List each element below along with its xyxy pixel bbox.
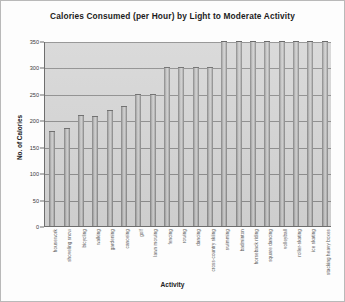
bar-slot xyxy=(150,41,156,226)
x-tick-label: rowing xyxy=(182,229,187,243)
bar-slot xyxy=(279,41,285,226)
x-tick-label: canoeing xyxy=(125,229,130,248)
bar-slot xyxy=(236,41,242,226)
bar[interactable] xyxy=(307,41,313,226)
plot-area xyxy=(44,42,331,227)
bar[interactable] xyxy=(322,41,328,226)
x-tick-label: roller-skating xyxy=(297,229,302,257)
x-tick-label: housework xyxy=(53,229,58,252)
bar[interactable] xyxy=(207,67,213,226)
bar-slot xyxy=(307,41,313,226)
chart-title: Calories Consumed (per Hour) by Light to… xyxy=(0,11,345,21)
bar-slot xyxy=(92,41,98,226)
bar-slot xyxy=(178,41,184,226)
bar-slot xyxy=(135,41,141,226)
x-axis-tick-labels: houseworkshoveling snowbicyclingwalkingg… xyxy=(44,229,331,277)
x-tick-label: ice skating xyxy=(311,229,316,252)
y-tick-label: 0 xyxy=(36,224,39,230)
bar[interactable] xyxy=(193,67,199,226)
x-tick-label: shoveling snow xyxy=(67,229,72,262)
bar-slot xyxy=(207,41,213,226)
x-tick-label: volleyball xyxy=(283,229,288,249)
x-tick-label: swimming xyxy=(225,229,230,250)
x-tick-label: badminton xyxy=(240,229,245,251)
bar[interactable] xyxy=(107,110,113,226)
bar-slot xyxy=(164,41,170,226)
x-tick-label: bicycling xyxy=(82,229,87,248)
y-tick-label: 50 xyxy=(33,198,39,204)
x-tick-label: gardening xyxy=(110,229,115,250)
bar[interactable] xyxy=(264,41,270,226)
y-axis: 050100150200250300350 xyxy=(0,42,44,227)
bar[interactable] xyxy=(250,41,256,226)
bar[interactable] xyxy=(135,94,141,226)
plot-wrapper xyxy=(44,42,331,227)
bar[interactable] xyxy=(150,94,156,226)
bar[interactable] xyxy=(78,115,84,226)
y-tick-label: 350 xyxy=(30,39,39,45)
y-tick-label: 200 xyxy=(30,118,39,124)
bar-slot xyxy=(322,41,328,226)
bar-slot xyxy=(250,41,256,226)
x-tick-label: stacking heavy boxes xyxy=(326,229,331,275)
bar-slot xyxy=(221,41,227,226)
bar[interactable] xyxy=(49,131,55,226)
bar-slot xyxy=(107,41,113,226)
x-tick-label: horseback riding xyxy=(254,229,259,264)
bar-slot xyxy=(264,41,270,226)
y-tick-label: 250 xyxy=(30,92,39,98)
bar[interactable] xyxy=(293,41,299,226)
y-tick-label: 100 xyxy=(30,171,39,177)
y-tick-label: 150 xyxy=(30,145,39,151)
bar[interactable] xyxy=(178,67,184,226)
x-tick-label: fencing xyxy=(168,229,173,245)
x-tick-label: square dancing xyxy=(268,229,273,262)
bar[interactable] xyxy=(64,128,70,226)
bar[interactable] xyxy=(221,41,227,226)
x-tick-label: walking xyxy=(96,229,101,245)
bar-slot xyxy=(78,41,84,226)
chart-figure: Calories Consumed (per Hour) by Light to… xyxy=(0,0,345,302)
bar[interactable] xyxy=(164,67,170,226)
bar-slot xyxy=(293,41,299,226)
bar-slot xyxy=(121,41,127,226)
bar[interactable] xyxy=(236,41,242,226)
bar-slot xyxy=(49,41,55,226)
x-tick-label: lawn mowing xyxy=(153,229,158,257)
x-tick-label: dancing xyxy=(196,229,201,246)
bar[interactable] xyxy=(279,41,285,226)
bar-slot xyxy=(64,41,70,226)
bar[interactable] xyxy=(121,106,127,227)
bar[interactable] xyxy=(92,116,98,226)
x-axis-title: Activity xyxy=(0,281,345,288)
y-tick-label: 300 xyxy=(30,65,39,71)
bar-slot xyxy=(193,41,199,226)
x-tick-label: golf xyxy=(139,229,144,237)
bar-series xyxy=(45,42,331,226)
x-tick-label: cross-country skiing xyxy=(211,229,216,272)
